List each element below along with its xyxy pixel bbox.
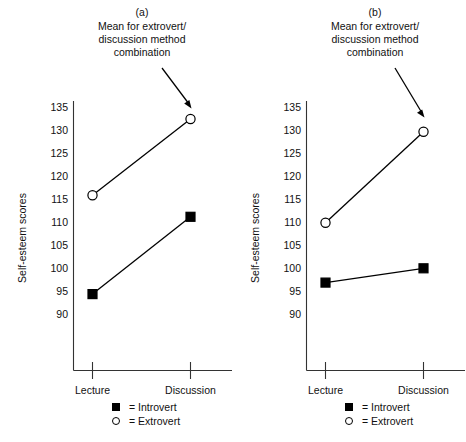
panel-a-ytick-95: 95 — [56, 285, 68, 297]
panel-b-ytick-135: 135 — [283, 101, 301, 113]
panel-a-ytick-110: 110 — [51, 216, 68, 228]
panel-a-xtick-discussion: Discussion — [165, 384, 216, 396]
panel-a-y-axis-title: Self-esteem scores — [16, 193, 28, 283]
panel-a-extrovert-discussion-point — [186, 114, 195, 123]
panel-a-legend-row-introvert: = Introvert — [112, 400, 180, 414]
panel-b-ytick-115: 115 — [284, 193, 301, 205]
panel-b-ytick-120: 120 — [283, 170, 301, 182]
panel-b-ytick-130: 130 — [283, 124, 301, 136]
panel-b-legend-label-introvert: = Introvert — [362, 400, 410, 414]
filled-square-icon — [345, 403, 359, 411]
panel-a-series-introvert — [88, 212, 195, 298]
panel-a-ytick-125: 125 — [50, 147, 68, 159]
panel-b-series-extrovert — [321, 127, 428, 227]
panel-a-ytick-105: 105 — [50, 239, 68, 251]
panel-a-ytick-120: 120 — [50, 170, 68, 182]
panel-b-annotation-arrow — [395, 68, 425, 118]
panel-b-legend-label-extrovert: = Extrovert — [362, 414, 413, 428]
panel-b-legend-row-introvert: = Introvert — [345, 400, 413, 414]
panel-a-annotation-arrow — [162, 68, 192, 109]
panel-b-ytick-100: 100 — [283, 262, 301, 274]
panel-b-xtick-lecture: Lecture — [308, 384, 343, 396]
panel-a-legend-label-introvert: = Introvert — [129, 400, 177, 414]
panel-b-ytick-105: 105 — [283, 239, 301, 251]
panel-a-legend-label-extrovert: = Extrovert — [129, 414, 180, 428]
panel-a-extrovert-lecture-point — [88, 191, 97, 200]
panel-b-legend: = Introvert = Extrovert — [345, 400, 413, 428]
panel-b-introvert-discussion-point — [419, 264, 428, 273]
panel-a-xtick-lecture: Lecture — [75, 384, 110, 396]
two-panel-interaction-figure: (a) Mean for extrovert/ discussion metho… — [0, 0, 466, 442]
panel-b-extrovert-lecture-point — [321, 218, 330, 227]
panel-b: (b) Mean for extrovert/ discussion metho… — [233, 0, 466, 442]
panel-a-y-tick-labels: 135 130 125 120 115 110 105 100 95 90 — [50, 101, 68, 320]
panel-a-legend: = Introvert = Extrovert — [112, 400, 180, 428]
panel-b-ytick-90: 90 — [289, 308, 301, 320]
panel-a-ytick-135: 135 — [50, 101, 68, 113]
panel-a-introvert-lecture-point — [88, 290, 97, 299]
panel-b-xtick-discussion: Discussion — [398, 384, 449, 396]
filled-square-icon — [112, 403, 126, 411]
panel-a-series-extrovert — [88, 114, 195, 199]
panel-a: (a) Mean for extrovert/ discussion metho… — [0, 0, 233, 442]
panel-b-ytick-125: 125 — [283, 147, 301, 159]
panel-b-y-axis-title: Self-esteem scores — [249, 193, 261, 283]
panel-b-y-tick-labels: 135 130 125 120 115 110 105 100 95 90 — [283, 101, 301, 320]
panel-a-ytick-130: 130 — [50, 124, 68, 136]
panel-b-plot-area: 135 130 125 120 115 110 105 100 95 90 Se… — [233, 0, 466, 400]
panel-a-ytick-90: 90 — [56, 308, 68, 320]
panel-a-ytick-115: 115 — [51, 193, 68, 205]
panel-b-extrovert-discussion-point — [419, 127, 428, 136]
panel-b-introvert-lecture-point — [321, 278, 330, 287]
panel-b-ytick-95: 95 — [289, 285, 301, 297]
panel-b-legend-row-extrovert: = Extrovert — [345, 414, 413, 428]
panel-b-ytick-110: 110 — [284, 216, 301, 228]
panel-a-introvert-discussion-point — [186, 212, 195, 221]
open-circle-icon — [112, 417, 126, 425]
panel-a-ytick-100: 100 — [50, 262, 68, 274]
panel-b-series-introvert — [321, 264, 428, 287]
open-circle-icon — [345, 417, 359, 425]
panel-a-plot-area: 135 130 125 120 115 110 105 100 95 90 Se… — [0, 0, 233, 400]
panel-a-legend-row-extrovert: = Extrovert — [112, 414, 180, 428]
